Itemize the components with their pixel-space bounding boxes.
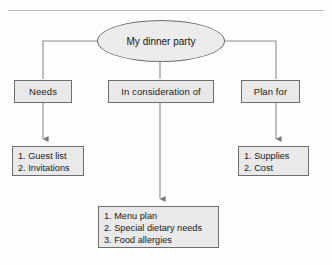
root-node-label: My dinner party xyxy=(127,36,196,47)
root-node-my-dinner-party[interactable]: My dinner party xyxy=(97,20,225,62)
diagram-canvas: My dinner party Needs In consideration o… xyxy=(0,0,332,265)
page-header-rule xyxy=(8,10,324,11)
consideration-item-list: 1. Menu plan 2. Special dietary needs 3.… xyxy=(104,210,214,247)
list-item: 1. Guest list xyxy=(18,150,79,162)
list-node-plan-items[interactable]: 1. Supplies 2. Cost xyxy=(238,146,309,176)
needs-item-list: 1. Guest list 2. Invitations xyxy=(18,150,79,174)
category-node-plan-for[interactable]: Plan for xyxy=(241,80,300,103)
category-node-plan-for-label: Plan for xyxy=(254,87,288,97)
list-item: 2. Invitations xyxy=(18,162,79,174)
list-item: 2. Special dietary needs xyxy=(104,222,214,234)
category-node-needs[interactable]: Needs xyxy=(14,80,72,103)
list-item: 1. Menu plan xyxy=(104,210,214,222)
connector-root-to-needs xyxy=(43,41,97,79)
category-node-in-consideration-of[interactable]: In consideration of xyxy=(108,80,214,103)
list-node-needs-items[interactable]: 1. Guest list 2. Invitations xyxy=(12,146,84,176)
list-item: 1. Supplies xyxy=(244,150,304,162)
category-node-needs-label: Needs xyxy=(29,87,57,97)
connector-root-to-plan xyxy=(223,41,276,79)
list-node-consideration-items[interactable]: 1. Menu plan 2. Special dietary needs 3.… xyxy=(98,206,219,248)
list-item: 3. Food allergies xyxy=(104,234,214,246)
list-item: 2. Cost xyxy=(244,162,304,174)
category-node-in-consideration-of-label: In consideration of xyxy=(121,87,201,97)
plan-item-list: 1. Supplies 2. Cost xyxy=(244,150,304,174)
